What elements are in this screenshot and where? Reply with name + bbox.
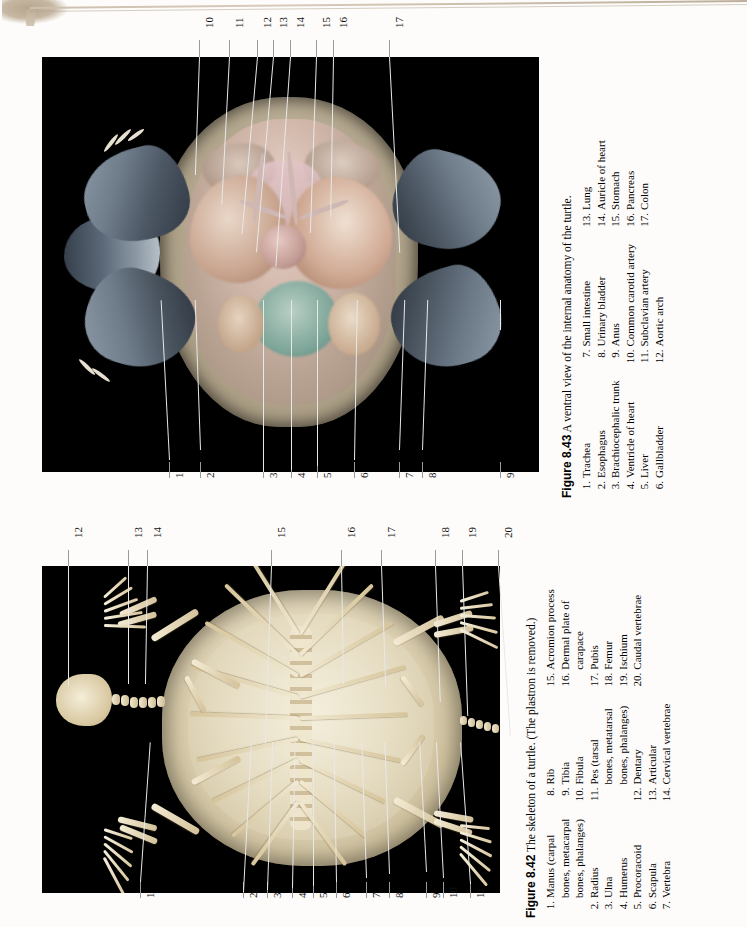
- claw-icon: [78, 358, 97, 376]
- callout-number: 16: [338, 17, 349, 28]
- legend-item-number: 6.: [645, 901, 660, 918]
- legend-column-3: 13.Lung14.Auricle of heart15.Stomach16.P…: [579, 140, 666, 230]
- callout-number: 7: [404, 473, 415, 479]
- leader-line: [470, 882, 471, 898]
- leader-line: [381, 550, 382, 566]
- legend-item-label: Auricle of heart: [594, 140, 609, 210]
- legend-item-number: 7.: [659, 901, 674, 918]
- legend-item-label: Procoracoid: [630, 845, 645, 898]
- callout-number: 1: [174, 473, 185, 479]
- figure-8-42-photo: [42, 566, 500, 893]
- legend-item-number: 2.: [594, 481, 609, 498]
- callout-number: 4: [296, 473, 307, 479]
- legend-item-number: 16.: [623, 213, 638, 230]
- leader-line: [435, 550, 436, 566]
- callout-number: 2: [205, 473, 216, 479]
- caudal-vertebra: [460, 716, 467, 725]
- heart-organ: [260, 225, 306, 269]
- cervical-vertebra: [121, 695, 129, 706]
- legend-item: 19.Ischium: [616, 589, 631, 689]
- legend-item-label: Aortic arch: [652, 297, 667, 347]
- callout-number: 16: [346, 527, 357, 538]
- legend-item: 13.Lung: [579, 140, 594, 230]
- legend-item-label: Stomach: [608, 171, 623, 210]
- cervical-vertebra: [148, 697, 156, 708]
- figure-8-43-caption-line: Figure 8.43 A ventral view of the intern…: [560, 140, 575, 498]
- legend-item: 18.Femur: [601, 589, 616, 689]
- legend-item: 8.Urinary bladder: [594, 244, 609, 367]
- leader-line: [229, 40, 230, 58]
- legend-item-label: Scapula: [645, 863, 660, 898]
- legend-item: 14.Auricle of heart: [594, 140, 609, 230]
- page-top-bleed: [0, 0, 747, 26]
- legend-item-number: 9.: [608, 350, 623, 367]
- legend-item-continuation: bones, phalanges): [616, 704, 631, 805]
- legend-item-number: 15.: [608, 213, 623, 230]
- legend-item-label: Articular: [645, 745, 660, 785]
- leader-line: [500, 462, 501, 478]
- callout-number: 20: [503, 527, 514, 538]
- legend-item-number: 13.: [579, 213, 594, 230]
- callout-number: 15: [276, 527, 287, 538]
- skull: [56, 674, 112, 726]
- legend-item: 15.Acromion process: [543, 589, 558, 689]
- callout-number: 9: [431, 893, 442, 899]
- legend-item-number: 3.: [608, 481, 623, 498]
- leader-line: [366, 882, 367, 898]
- callout-number: 17: [386, 527, 397, 538]
- legend-item-label: Liver: [637, 454, 652, 478]
- legend-item-label: Humerus: [616, 858, 631, 898]
- legend-item-number: 20.: [630, 673, 645, 690]
- callout-number: 2: [248, 893, 259, 899]
- legend-item-number: 17.: [637, 213, 652, 230]
- legend-item-continuation: bones, phalanges): [572, 819, 587, 918]
- figure-8-42-caption-text: The skeleton of a turtle. (The plastron …: [525, 618, 537, 852]
- legend-item-label: Acromion process: [543, 589, 558, 669]
- legend-item-number: 7.: [579, 350, 594, 367]
- legend-item-label: Subclavian artery: [637, 269, 652, 346]
- callout-number: 5: [318, 893, 329, 899]
- legend-item-label: Trachea: [579, 443, 594, 478]
- legend-item-label: Manus (carpal: [543, 835, 558, 898]
- legend-item: 5.Liver: [637, 381, 652, 498]
- figure-8-42-number: Figure 8.42: [524, 855, 538, 918]
- leader-line: [290, 40, 291, 58]
- legend-item: 15.Stomach: [608, 140, 623, 230]
- legend-item-label: Rib: [543, 769, 558, 785]
- figure-8-42-legend: 1.Manus (carpalbones, metacarpalbones, p…: [543, 589, 674, 918]
- legend-item-number: 8.: [543, 788, 558, 805]
- leader-line-inner: [291, 300, 292, 470]
- legend-item: 7.Small intestine: [579, 244, 594, 367]
- caudal-vertebra: [484, 722, 491, 731]
- legend-item-label: Ischium: [616, 634, 631, 669]
- leader-line: [426, 882, 427, 898]
- legend-item: 6.Scapula: [645, 819, 660, 918]
- figure-8-42-caption-line: Figure 8.42 The skeleton of a turtle. (T…: [524, 589, 539, 918]
- legend-item: 2.Radius: [587, 819, 602, 918]
- legend-item: 16.Pancreas: [623, 140, 638, 230]
- legend-item: 11.Subclavian artery: [637, 244, 652, 367]
- leader-line: [68, 550, 69, 566]
- legend-column-3: 15.Acromion process16.Dermal plate ofcar…: [543, 589, 674, 689]
- legend-item: 6.Gallbladder: [652, 381, 667, 498]
- callout-number: 4: [297, 893, 308, 899]
- leader-line: [333, 40, 334, 58]
- leader-line-inner: [128, 566, 129, 684]
- leader-line: [354, 462, 355, 478]
- legend-item-label: Pubis: [587, 645, 602, 669]
- legend-item: 11.Pes (tarsal: [587, 704, 602, 805]
- legend-item: 14.Cervical vertebrae: [659, 704, 674, 805]
- leader-line-inner: [317, 300, 318, 466]
- leader-line-inner: [263, 300, 264, 472]
- legend-item-number: 11.: [637, 350, 652, 367]
- legend-item: 20.Caudal vertebrae: [630, 589, 645, 689]
- legend-item: 7.Vertebra: [659, 819, 674, 918]
- legend-item-number: 8.: [594, 350, 609, 367]
- legend-item-number: 1.: [543, 901, 558, 918]
- legend-item-label: Femur: [601, 641, 616, 670]
- legend-item-continuation: bones, metatarsal: [601, 704, 616, 805]
- legend-item-number: 12.: [630, 788, 645, 805]
- callout-number: 9: [505, 473, 516, 479]
- leader-line: [169, 462, 170, 478]
- legend-item-label: Small intestine: [579, 281, 594, 347]
